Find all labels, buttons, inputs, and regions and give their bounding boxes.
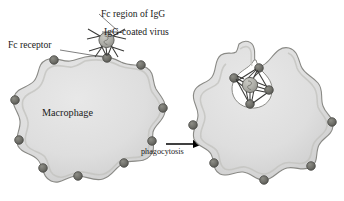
fc-receptor-bound <box>255 64 264 73</box>
fc-receptor <box>120 159 129 168</box>
fc-receptor <box>15 136 24 145</box>
macrophage-body-left <box>13 56 165 182</box>
phagocytosis-diagram <box>0 0 344 201</box>
label-phagocytosis: phagocytosis <box>141 148 184 156</box>
panel-after <box>189 41 337 184</box>
fc-receptor <box>307 162 316 171</box>
fc-receptor <box>11 96 20 105</box>
fc-receptor <box>137 61 146 70</box>
fc-receptor <box>328 118 337 127</box>
fc-receptor <box>50 56 59 65</box>
fc-receptor-bound <box>265 86 274 95</box>
label-igg-coated-virus: IgG-coated virus <box>104 27 169 37</box>
fc-receptor <box>210 159 219 168</box>
figure-canvas: Fc region of IgG IgG-coated virus Fc rec… <box>0 0 344 201</box>
label-fc-receptor: Fc receptor <box>8 40 51 50</box>
fc-receptor <box>260 176 269 185</box>
fc-receptor <box>148 137 157 146</box>
leader-line-fc-receptor <box>60 50 103 57</box>
fc-receptor <box>39 164 48 173</box>
fc-receptor <box>159 104 168 113</box>
fc-receptor-bound <box>246 100 255 109</box>
fc-receptor <box>189 121 198 130</box>
fc-receptor <box>74 172 83 181</box>
label-macrophage: Macrophage <box>42 108 93 118</box>
label-fc-region-of-igg: Fc region of IgG <box>101 9 165 19</box>
